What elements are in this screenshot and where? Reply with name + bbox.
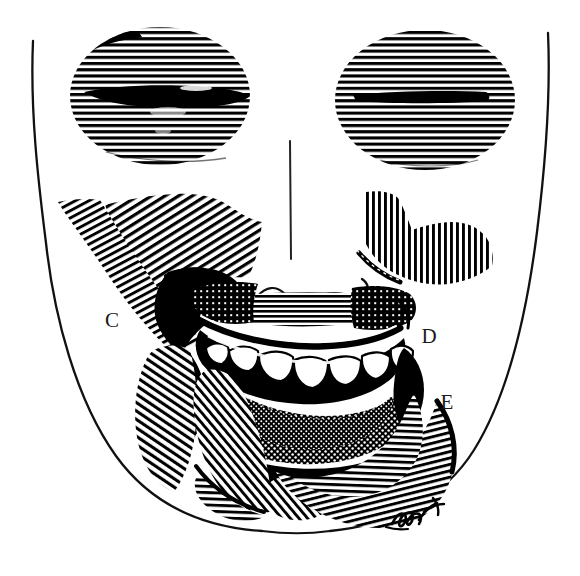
label-c: C: [105, 308, 119, 332]
figure-canvas: C D E: [0, 0, 580, 576]
label-e: E: [441, 390, 454, 414]
label-d: D: [421, 324, 436, 348]
anatomical-figure: C D E: [0, 0, 580, 576]
midline: [290, 141, 291, 259]
